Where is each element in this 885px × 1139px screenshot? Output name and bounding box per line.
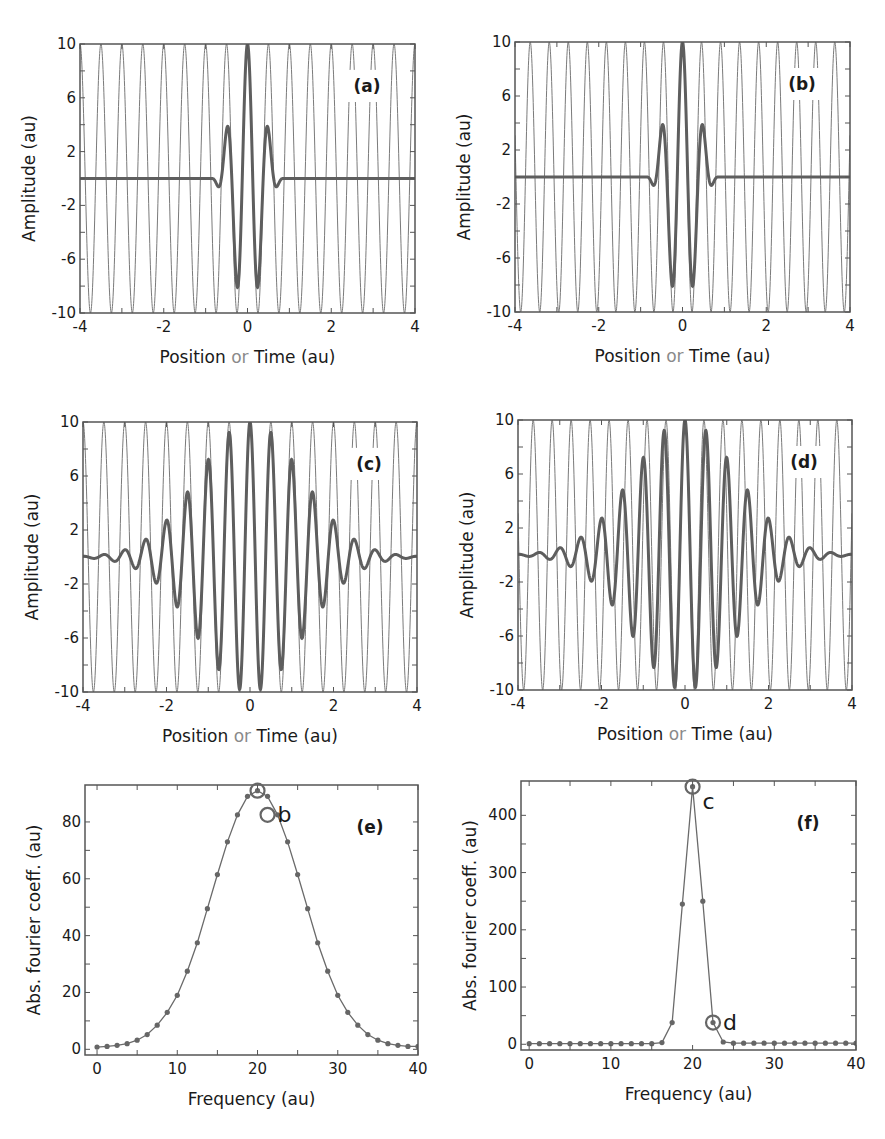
y-tick-label: 10 xyxy=(492,33,511,51)
x-tick-label: -2 xyxy=(594,695,609,713)
data-point xyxy=(782,1041,787,1046)
y-tick-label: 300 xyxy=(488,864,517,882)
y-tick-label: 400 xyxy=(488,806,517,824)
x-tick-label: 4 xyxy=(412,697,422,715)
data-point xyxy=(578,1041,583,1046)
data-point xyxy=(588,1041,593,1046)
xlabel-part: Position xyxy=(160,347,232,367)
marker-label: c xyxy=(703,789,715,814)
data-point xyxy=(629,1041,634,1046)
data-point xyxy=(285,839,290,844)
data-point xyxy=(537,1041,542,1046)
y-tick-label: -2 xyxy=(61,196,76,214)
data-point xyxy=(833,1041,838,1046)
data-point xyxy=(700,899,705,904)
xlabel-or-word: or xyxy=(666,346,683,366)
y-tick-label: -2 xyxy=(64,575,79,593)
x-tick-label: 10 xyxy=(168,1060,187,1078)
y-tick-label: 6 xyxy=(501,87,511,105)
data-point xyxy=(145,1032,150,1037)
data-point xyxy=(205,906,210,911)
y-tick-label: 6 xyxy=(66,89,76,107)
y-tick-label: 6 xyxy=(504,465,514,483)
y-axis-label: Amplitude (au) xyxy=(19,115,39,242)
panel-label: (b) xyxy=(788,74,816,94)
data-point xyxy=(295,872,300,877)
x-axis-label: Position or Time (au) xyxy=(160,347,336,367)
data-point xyxy=(823,1041,828,1046)
x-tick-label: 40 xyxy=(846,1055,865,1073)
data-point xyxy=(245,794,250,799)
data-point xyxy=(315,940,320,945)
data-point xyxy=(385,1041,390,1046)
panel-label: (f) xyxy=(797,813,820,833)
data-point xyxy=(547,1041,552,1046)
xlabel-part: Time (au) xyxy=(686,724,773,744)
xlabel-or-word: or xyxy=(669,724,686,744)
panel-c: -4-2024-10-6-22610Position or Time (au)A… xyxy=(22,413,422,746)
x-tick-label: 2 xyxy=(326,318,336,336)
data-point xyxy=(680,901,685,906)
data-point xyxy=(165,1010,170,1015)
y-tick-label: 10 xyxy=(57,35,76,53)
xlabel-or-word: or xyxy=(231,347,248,367)
xlabel-part: Time (au) xyxy=(249,347,336,367)
y-tick-label: -10 xyxy=(52,304,77,322)
xlabel-or-word: or xyxy=(234,726,251,746)
figure: -4-2024-10-6-22610Position or Time (au)A… xyxy=(0,0,885,1139)
panel-a: -4-2024-10-6-22610Position or Time (au)A… xyxy=(19,35,420,367)
x-axis-label: Position or Time (au) xyxy=(595,346,771,366)
marker-label: d xyxy=(723,1010,737,1035)
data-point xyxy=(802,1041,807,1046)
y-tick-label: -6 xyxy=(64,629,79,647)
panel-label: (e) xyxy=(356,817,383,837)
x-tick-label: 2 xyxy=(329,697,339,715)
data-point xyxy=(751,1041,756,1046)
x-tick-label: 0 xyxy=(92,1060,102,1078)
y-tick-label: 2 xyxy=(504,519,514,537)
x-tick-label: -2 xyxy=(591,317,606,335)
data-point xyxy=(761,1041,766,1046)
y-axis-label: Amplitude (au) xyxy=(22,494,42,621)
data-point xyxy=(598,1041,603,1046)
data-point xyxy=(335,993,340,998)
xlabel-part: Time (au) xyxy=(684,346,771,366)
data-point xyxy=(94,1044,99,1049)
y-tick-label: 100 xyxy=(488,978,517,996)
panel-label: (c) xyxy=(356,454,382,474)
y-tick-label: -2 xyxy=(499,573,514,591)
data-point xyxy=(215,872,220,877)
x-tick-label: 30 xyxy=(328,1060,347,1078)
y-tick-label: 40 xyxy=(62,927,81,945)
panel-e: 010203040020406080Frequency (au)Abs. fou… xyxy=(24,784,428,1109)
x-axis-label: Frequency (au) xyxy=(625,1084,753,1104)
y-tick-label: 2 xyxy=(501,141,511,159)
data-point xyxy=(557,1041,562,1046)
data-point xyxy=(355,1023,360,1028)
figure-canvas: -4-2024-10-6-22610Position or Time (au)A… xyxy=(0,0,885,1139)
panel-d: -4-2024-10-6-22610Position or Time (au)A… xyxy=(457,411,857,744)
data-point xyxy=(235,812,240,817)
x-tick-label: 0 xyxy=(524,1055,534,1073)
y-tick-label: 2 xyxy=(66,143,76,161)
data-point xyxy=(175,993,180,998)
x-tick-label: -2 xyxy=(159,697,174,715)
xlabel-part: Position xyxy=(595,346,667,366)
x-tick-label: 4 xyxy=(847,695,857,713)
y-tick-label: 80 xyxy=(62,813,81,831)
marker-label: b xyxy=(278,802,292,827)
highlight-circle-marker xyxy=(261,808,275,822)
x-tick-label: 20 xyxy=(248,1060,267,1078)
data-point xyxy=(670,1020,675,1025)
x-tick-label: 0 xyxy=(680,695,690,713)
y-tick-label: -10 xyxy=(55,683,80,701)
y-axis-label: Abs. fourier coeff. (au) xyxy=(460,820,480,1011)
data-point xyxy=(721,1039,726,1044)
x-tick-label: 4 xyxy=(410,318,420,336)
data-point xyxy=(659,1040,664,1045)
data-point xyxy=(265,794,270,799)
y-tick-label: -6 xyxy=(499,627,514,645)
y-tick-label: 200 xyxy=(488,921,517,939)
xlabel-part: Position xyxy=(162,726,234,746)
y-axis-label: Abs. fourier coeff. (au) xyxy=(24,825,44,1016)
